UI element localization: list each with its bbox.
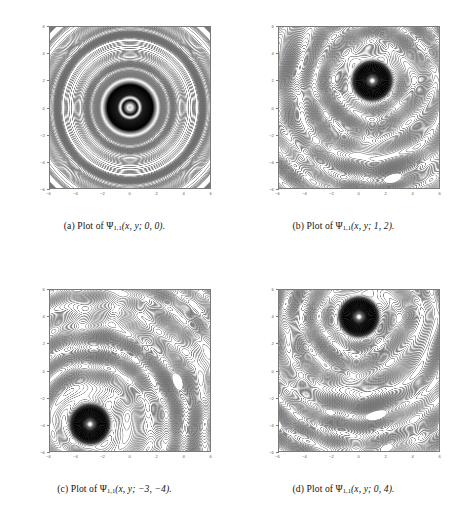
- y-tick-label: 6: [42, 287, 44, 292]
- panel-b: −6−4−20246 −6−4−20246 (b) Plot of Ψ1,1(x…: [229, 0, 458, 263]
- x-axis-labels-b: −6−4−20246: [278, 190, 440, 202]
- plot-area-a: −6−4−20246 −6−4−20246: [27, 26, 213, 209]
- caption-b-symbol: Ψ: [336, 220, 343, 231]
- contour-canvas-c: [50, 290, 210, 451]
- figure-contour-plot-grid: −6−4−20246 −6−4−20246 (a) Plot of Ψ1,1(x…: [0, 0, 458, 527]
- contour-canvas-d: [279, 290, 439, 451]
- x-tick-label: 0: [128, 191, 130, 196]
- y-axis-labels-c: −6−4−20246: [27, 289, 47, 452]
- y-tick-label: −4: [269, 422, 273, 427]
- caption-a-subscript: 1,1: [114, 224, 122, 231]
- caption-a-prefix: (a) Plot of: [64, 220, 104, 231]
- y-tick-label: 2: [271, 78, 273, 83]
- y-tick-label: −6: [269, 450, 273, 455]
- y-tick-label: 0: [271, 368, 273, 373]
- x-axis-labels-d: −6−4−20246: [278, 453, 440, 465]
- caption-d-symbol: Ψ: [336, 483, 343, 494]
- y-tick-label: −4: [269, 159, 273, 164]
- x-tick-label: −4: [73, 191, 77, 196]
- axes-frame-a: [49, 26, 211, 189]
- x-tick-label: 2: [155, 191, 157, 196]
- y-tick-label: 4: [271, 51, 273, 56]
- y-tick-label: −6: [40, 187, 44, 192]
- y-tick-label: 0: [42, 368, 44, 373]
- y-tick-label: −4: [40, 159, 44, 164]
- caption-b-args: (x, y; 1, 2).: [351, 220, 394, 231]
- x-tick-label: −2: [329, 191, 333, 196]
- panel-d: −6−4−20246 −6−4−20246 (d) Plot of Ψ1,1(x…: [229, 263, 458, 527]
- y-tick-label: −6: [40, 450, 44, 455]
- y-tick-label: 4: [42, 51, 44, 56]
- x-tick-label: −4: [302, 191, 306, 196]
- y-tick-label: 2: [42, 341, 44, 346]
- y-tick-label: −2: [269, 395, 273, 400]
- axes-frame-d: [278, 289, 440, 452]
- y-tick-label: 6: [271, 24, 273, 29]
- x-tick-label: 4: [411, 454, 413, 459]
- y-tick-label: 0: [271, 105, 273, 110]
- y-tick-label: 0: [42, 105, 44, 110]
- x-tick-label: 4: [182, 454, 184, 459]
- x-tick-label: 6: [209, 454, 211, 459]
- caption-a-symbol: Ψ: [106, 220, 113, 231]
- x-tick-label: −6: [275, 454, 279, 459]
- x-tick-label: −6: [46, 191, 50, 196]
- y-tick-label: 2: [42, 78, 44, 83]
- y-axis-labels-d: −6−4−20246: [256, 289, 276, 452]
- contour-canvas-b: [279, 27, 439, 188]
- y-tick-label: −6: [269, 187, 273, 192]
- x-axis-labels-c: −6−4−20246: [49, 453, 211, 465]
- caption-b-prefix: (b) Plot of: [293, 220, 334, 231]
- contour-canvas-a: [50, 27, 210, 188]
- axes-frame-b: [278, 26, 440, 189]
- y-axis-labels-a: −6−4−20246: [27, 26, 47, 189]
- caption-d-prefix: (d) Plot of: [293, 483, 334, 494]
- x-tick-label: −4: [302, 454, 306, 459]
- axes-frame-c: [49, 289, 211, 452]
- x-tick-label: 6: [438, 454, 440, 459]
- plot-area-c: −6−4−20246 −6−4−20246: [27, 289, 213, 472]
- caption-c: (c) Plot of Ψ1,1(x, y; −3, −4).: [57, 483, 171, 494]
- x-tick-label: 2: [384, 191, 386, 196]
- y-tick-label: 6: [42, 24, 44, 29]
- x-tick-label: 4: [182, 191, 184, 196]
- caption-a-args: (x, y; 0, 0).: [122, 220, 165, 231]
- x-tick-label: 4: [411, 191, 413, 196]
- caption-c-prefix: (c) Plot of: [57, 483, 97, 494]
- caption-d: (d) Plot of Ψ1,1(x, y; 0, 4).: [293, 483, 395, 494]
- y-tick-label: 4: [271, 314, 273, 319]
- y-tick-label: −2: [40, 395, 44, 400]
- x-tick-label: 0: [357, 454, 359, 459]
- x-tick-label: 2: [155, 454, 157, 459]
- panel-c: −6−4−20246 −6−4−20246 (c) Plot of Ψ1,1(x…: [0, 263, 229, 527]
- plot-area-b: −6−4−20246 −6−4−20246: [256, 26, 442, 209]
- y-tick-label: 2: [271, 341, 273, 346]
- caption-d-args: (x, y; 0, 4).: [351, 483, 394, 494]
- caption-c-subscript: 1,1: [107, 487, 115, 494]
- plot-area-d: −6−4−20246 −6−4−20246: [256, 289, 442, 472]
- caption-b-subscript: 1,1: [343, 224, 351, 231]
- x-tick-label: 6: [438, 191, 440, 196]
- y-tick-label: −2: [269, 132, 273, 137]
- x-tick-label: −6: [275, 191, 279, 196]
- y-tick-label: 4: [42, 314, 44, 319]
- x-tick-label: 6: [209, 191, 211, 196]
- x-axis-labels-a: −6−4−20246: [49, 190, 211, 202]
- y-tick-label: −4: [40, 422, 44, 427]
- x-tick-label: 2: [384, 454, 386, 459]
- caption-a: (a) Plot of Ψ1,1(x, y; 0, 0).: [64, 220, 165, 231]
- x-tick-label: 0: [357, 191, 359, 196]
- x-tick-label: 0: [128, 454, 130, 459]
- caption-c-args: (x, y; −3, −4).: [115, 483, 172, 494]
- y-tick-label: −2: [40, 132, 44, 137]
- caption-d-subscript: 1,1: [343, 487, 351, 494]
- y-axis-labels-b: −6−4−20246: [256, 26, 276, 189]
- panel-grid: −6−4−20246 −6−4−20246 (a) Plot of Ψ1,1(x…: [0, 0, 458, 527]
- x-tick-label: −4: [73, 454, 77, 459]
- x-tick-label: −2: [100, 454, 104, 459]
- caption-b: (b) Plot of Ψ1,1(x, y; 1, 2).: [293, 220, 395, 231]
- x-tick-label: −2: [100, 191, 104, 196]
- caption-c-symbol: Ψ: [100, 483, 107, 494]
- y-tick-label: 6: [271, 287, 273, 292]
- panel-a: −6−4−20246 −6−4−20246 (a) Plot of Ψ1,1(x…: [0, 0, 229, 263]
